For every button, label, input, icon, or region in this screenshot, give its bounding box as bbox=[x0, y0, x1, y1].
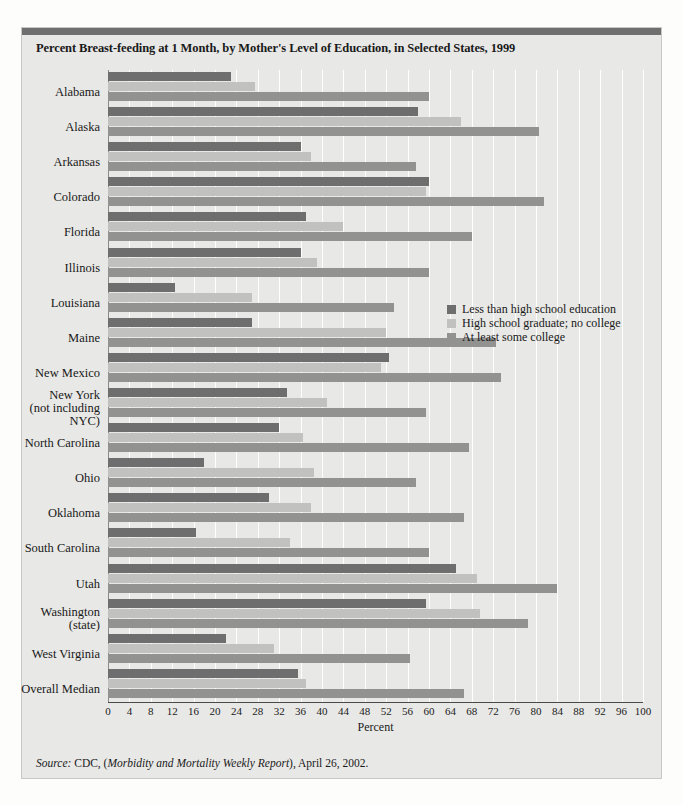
bar-0 bbox=[108, 177, 429, 186]
bar-1 bbox=[108, 187, 426, 196]
x-tick-label: 52 bbox=[381, 705, 392, 717]
bar-1 bbox=[108, 363, 381, 372]
x-tick-label: 44 bbox=[338, 705, 349, 717]
gridline bbox=[643, 70, 644, 702]
bar-0 bbox=[108, 142, 301, 151]
source-date: ), April 26, 2002. bbox=[289, 757, 368, 769]
bar-1 bbox=[108, 433, 303, 442]
bar-row: North Carolina bbox=[108, 423, 643, 458]
bar-2 bbox=[108, 619, 528, 628]
bar-row: Oklahoma bbox=[108, 493, 643, 528]
x-tick-label: 28 bbox=[252, 705, 263, 717]
bar-row: Overall Median bbox=[108, 669, 643, 704]
category-label: New York (not including NYC) bbox=[30, 389, 100, 428]
bar-0 bbox=[108, 353, 389, 362]
bar-2 bbox=[108, 373, 501, 382]
bar-2 bbox=[108, 92, 429, 101]
bar-row: Colorado bbox=[108, 177, 643, 212]
legend-label: Less than high school education bbox=[462, 302, 616, 317]
legend-label: At least some college bbox=[462, 330, 565, 345]
x-tick-label: 36 bbox=[295, 705, 306, 717]
bar-1 bbox=[108, 222, 343, 231]
category-label: Utah bbox=[76, 578, 100, 591]
x-tick-label: 100 bbox=[635, 705, 652, 717]
source-label: Source: bbox=[36, 757, 71, 769]
bar-2 bbox=[108, 162, 416, 171]
bar-row: Arkansas bbox=[108, 142, 643, 177]
bar-0 bbox=[108, 72, 231, 81]
x-tick-label: 40 bbox=[317, 705, 328, 717]
legend-swatch bbox=[447, 305, 456, 314]
bar-2 bbox=[108, 513, 464, 522]
bar-2 bbox=[108, 443, 469, 452]
bar-row: West Virginia bbox=[108, 634, 643, 669]
category-label: North Carolina bbox=[25, 437, 100, 450]
bar-1 bbox=[108, 503, 311, 512]
x-axis-label: Percent bbox=[108, 720, 643, 735]
category-label: Illinois bbox=[65, 262, 100, 275]
bar-2 bbox=[108, 338, 496, 347]
source-text: CDC, ( bbox=[71, 757, 107, 769]
category-label: West Virginia bbox=[32, 648, 100, 661]
bar-row: Utah bbox=[108, 564, 643, 599]
category-label: Florida bbox=[64, 226, 100, 239]
bar-2 bbox=[108, 584, 557, 593]
x-tick-label: 12 bbox=[167, 705, 178, 717]
x-tick-label: 4 bbox=[127, 705, 133, 717]
bar-0 bbox=[108, 107, 418, 116]
bar-0 bbox=[108, 212, 306, 221]
x-tick-label: 48 bbox=[359, 705, 370, 717]
bar-1 bbox=[108, 538, 290, 547]
bar-1 bbox=[108, 398, 327, 407]
source-note: Source: CDC, (Morbidity and Mortality We… bbox=[36, 757, 368, 769]
bar-2 bbox=[108, 689, 464, 698]
legend-swatch bbox=[447, 333, 456, 342]
category-label: Ohio bbox=[75, 472, 100, 485]
bar-0 bbox=[108, 283, 175, 292]
legend-item: Less than high school education bbox=[447, 302, 621, 316]
x-tick-label: 32 bbox=[274, 705, 285, 717]
bar-0 bbox=[108, 634, 226, 643]
bar-row: Washington (state) bbox=[108, 599, 643, 634]
bar-1 bbox=[108, 117, 461, 126]
bar-row: Florida bbox=[108, 212, 643, 247]
x-tick-label: 96 bbox=[616, 705, 627, 717]
bar-row: Alabama bbox=[108, 72, 643, 107]
legend-label: High school graduate; no college bbox=[462, 316, 621, 331]
bar-row: New York (not including NYC) bbox=[108, 388, 643, 423]
x-tick-label: 8 bbox=[148, 705, 154, 717]
bar-1 bbox=[108, 293, 252, 302]
bar-0 bbox=[108, 528, 196, 537]
page-background: Percent Breast-feeding at 1 Month, by Mo… bbox=[0, 0, 683, 805]
legend-item: At least some college bbox=[447, 330, 621, 344]
bar-1 bbox=[108, 644, 274, 653]
x-tick-label: 84 bbox=[552, 705, 563, 717]
bar-1 bbox=[108, 82, 255, 91]
category-label: Louisiana bbox=[51, 297, 100, 310]
bar-2 bbox=[108, 408, 426, 417]
category-label: New Mexico bbox=[35, 367, 100, 380]
bar-1 bbox=[108, 609, 480, 618]
page-title: Percent Breast-feeding at 1 Month, by Mo… bbox=[36, 41, 515, 56]
bar-1 bbox=[108, 328, 386, 337]
bar-1 bbox=[108, 679, 306, 688]
x-tick-label: 68 bbox=[466, 705, 477, 717]
bar-0 bbox=[108, 248, 301, 257]
legend-item: High school graduate; no college bbox=[447, 316, 621, 330]
category-label: Overall Median bbox=[21, 683, 100, 696]
category-label: Alaska bbox=[65, 121, 100, 134]
bar-2 bbox=[108, 478, 416, 487]
source-publication: Morbidity and Mortality Weekly Report bbox=[107, 757, 289, 769]
bar-2 bbox=[108, 197, 544, 206]
bar-2 bbox=[108, 268, 429, 277]
category-label: South Carolina bbox=[25, 542, 100, 555]
x-axis-ticks: 0481216202428323640444852566064687276808… bbox=[108, 702, 643, 720]
bar-row: Ohio bbox=[108, 458, 643, 493]
x-tick-label: 92 bbox=[595, 705, 606, 717]
x-tick-label: 76 bbox=[509, 705, 520, 717]
x-tick-label: 72 bbox=[488, 705, 499, 717]
bar-row: New Mexico bbox=[108, 353, 643, 388]
bar-2 bbox=[108, 303, 394, 312]
category-label: Washington (state) bbox=[41, 606, 100, 632]
bar-1 bbox=[108, 258, 317, 267]
